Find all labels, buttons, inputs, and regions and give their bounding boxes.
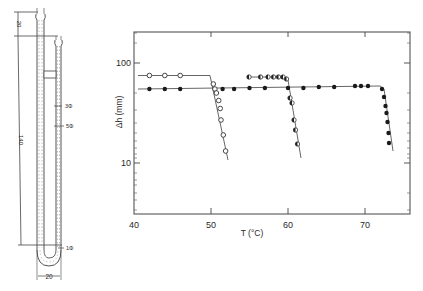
xtick-50: 50 [206, 220, 216, 230]
y-axis-label: Δh (mm) [114, 96, 124, 129]
xtick-60: 60 [283, 220, 293, 230]
y-minor-ticks [134, 33, 410, 210]
x-ticks [211, 32, 365, 214]
xtick-40: 40 [129, 220, 139, 230]
ytick-10: 10 [121, 158, 131, 168]
xtick-70: 70 [360, 220, 370, 230]
ytick-100: 100 [116, 58, 131, 68]
top-dim-label: 20 [16, 21, 22, 28]
inner-diameter-label: 3Φ [65, 103, 73, 109]
width-dim-label: 20 [45, 273, 53, 280]
outer-diameter-label: 5Φ [66, 123, 74, 129]
series-open-circles [147, 73, 228, 153]
wall-thickness-label: 1Φ [66, 245, 74, 251]
series-filled-circles [147, 84, 391, 145]
plot-frame [134, 32, 410, 214]
u-tube-diagram: 20 140 20 3Φ 5Φ 1Φ [14, 8, 74, 280]
chart: 100 10 40 50 60 70 Δh (mm) T (°C) [114, 32, 410, 238]
length-dim-label: 140 [18, 135, 24, 146]
fit-line-filled [138, 86, 393, 151]
fit-line-half [249, 77, 301, 158]
x-axis-label: T (°C) [241, 228, 264, 238]
figure: 20 140 20 3Φ 5Φ 1Φ [0, 0, 423, 291]
series-half-circles [247, 75, 300, 146]
